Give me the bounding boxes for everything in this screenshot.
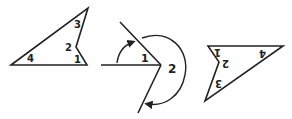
middle-label-2: 2 bbox=[168, 62, 176, 76]
middle-label-1: 1 bbox=[141, 52, 149, 65]
middle-angle-figure: 1 2 bbox=[101, 22, 186, 113]
left-label-2: 2 bbox=[65, 42, 72, 53]
arc-arrow-1-icon bbox=[117, 42, 133, 63]
left-label-4: 4 bbox=[27, 53, 34, 64]
right-label-1: 1 bbox=[214, 47, 221, 58]
left-label-1: 1 bbox=[74, 54, 81, 65]
left-label-3: 3 bbox=[74, 19, 81, 30]
angle-diagram: 4 2 3 1 1 2 4 2 3 1 bbox=[0, 0, 292, 119]
right-label-3: 3 bbox=[215, 78, 222, 89]
right-quadrilateral: 4 2 3 1 bbox=[205, 46, 283, 101]
left-quadrilateral: 4 2 3 1 bbox=[11, 8, 88, 65]
right-label-4: 4 bbox=[259, 48, 266, 59]
right-label-2: 2 bbox=[222, 58, 229, 69]
arc-arrow-2-icon bbox=[142, 36, 186, 105]
